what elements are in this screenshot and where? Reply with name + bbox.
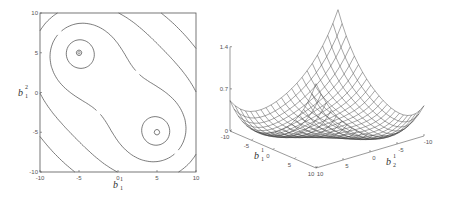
x-tick-label: 5 — [155, 175, 159, 181]
contour-x-label-sup: 1 — [120, 176, 123, 182]
surface-x-label: b — [254, 150, 259, 161]
b2-tick-label: 10 — [317, 171, 324, 177]
contour-line — [40, 13, 196, 172]
contour-y-label: b — [18, 87, 23, 98]
b1-tick-label: 5 — [288, 162, 292, 168]
b1-tick-label: -10 — [221, 134, 230, 140]
surface-wireframe — [230, 10, 424, 140]
surface-plot: 00.71.4-10-505101050-5-10 b 1 1 b 1 2 — [220, 10, 433, 177]
b1-tick-label: 10 — [308, 171, 315, 177]
y-tick-label: -5 — [33, 129, 39, 135]
surface-y-label-sup: 1 — [393, 153, 396, 159]
contour-y-label-sup: 2 — [25, 84, 28, 90]
contour-x-label-sub: 1 — [120, 185, 123, 191]
x-tick-label: 10 — [193, 175, 200, 181]
b1-tick — [273, 148, 275, 150]
surface-axes — [230, 47, 424, 168]
z-tick-label: 0.7 — [220, 86, 229, 92]
z-tick-label: 1.4 — [220, 44, 229, 50]
b2-tick-label: -5 — [398, 147, 404, 153]
y-tick-label: -10 — [29, 169, 38, 175]
contour-x-label: b — [113, 179, 118, 190]
contour-line — [40, 13, 196, 172]
b1-tick — [295, 157, 297, 159]
x-tick-label: -5 — [76, 175, 82, 181]
minimum-marker — [78, 52, 80, 54]
b1-tick — [252, 139, 254, 141]
surface-y-label: b — [386, 156, 391, 167]
surface-mesh — [230, 10, 424, 140]
y-tick-label: 5 — [35, 50, 39, 56]
b2-tick-label: 0 — [372, 155, 376, 161]
contour-line — [76, 50, 159, 135]
contour-plot: -10-50510 -10-50510 b 1 1 b 2 1 — [18, 10, 200, 191]
surface-y-label-sub: 2 — [393, 162, 396, 168]
surface-x-label-sup: 1 — [261, 147, 264, 153]
b2-tick-label: 5 — [345, 163, 349, 169]
contour-line — [66, 40, 169, 145]
contour-frame — [40, 13, 196, 172]
surface-x-label-sub: 1 — [261, 156, 264, 162]
contour-y-label-sub: 1 — [25, 93, 28, 99]
y-tick-label: 10 — [31, 10, 38, 16]
figure: -10-50510 -10-50510 b 1 1 b 2 1 00.71.4-… — [0, 0, 458, 197]
surface-ticks: 00.71.4-10-505101050-5-10 — [220, 44, 433, 177]
contour-lines — [40, 13, 196, 172]
b2-tick-label: -10 — [424, 139, 433, 145]
b1-tick-label: 0 — [266, 153, 270, 159]
x-tick-label: -10 — [36, 175, 45, 181]
b1-tick-label: -5 — [244, 143, 250, 149]
y-tick-label: 0 — [35, 90, 39, 96]
